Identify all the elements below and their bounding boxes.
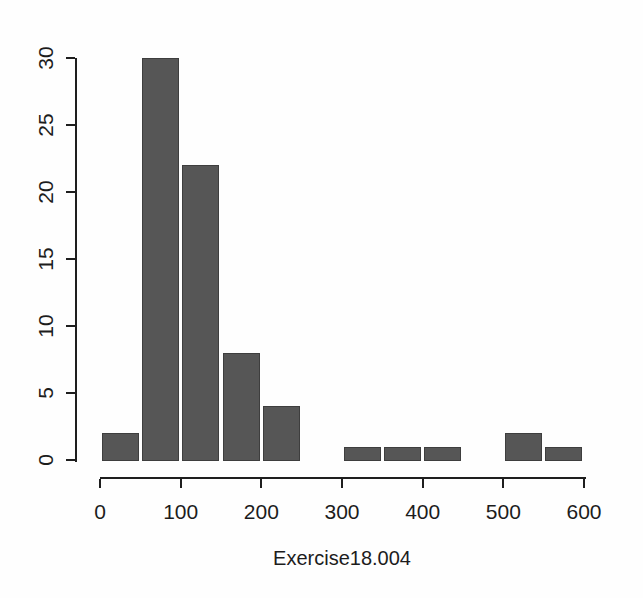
y-tick [66, 258, 75, 260]
y-tick-label: 30 [34, 46, 58, 69]
histogram-bar [182, 165, 219, 461]
x-tick [260, 479, 262, 488]
x-tick-label: 400 [405, 500, 440, 524]
histogram-bar [223, 353, 260, 461]
y-tick [66, 392, 75, 394]
y-tick [66, 124, 75, 126]
y-tick [66, 459, 75, 461]
x-tick-label: 600 [566, 500, 601, 524]
x-tick-label: 0 [94, 500, 106, 524]
y-tick-label: 5 [34, 387, 58, 399]
histogram-bar [545, 447, 582, 461]
y-tick [66, 57, 75, 59]
y-tick-label: 15 [34, 247, 58, 270]
x-tick [180, 479, 182, 488]
x-axis-title: Exercise18.004 [273, 547, 411, 570]
y-tick [66, 191, 75, 193]
histogram-bar [384, 447, 421, 461]
y-tick [66, 325, 75, 327]
y-tick-label: 20 [34, 180, 58, 203]
x-tick [341, 479, 343, 488]
x-axis-line [100, 477, 586, 479]
histogram-bar [424, 447, 461, 461]
x-tick [583, 479, 585, 488]
histogram-bar [142, 58, 179, 461]
x-tick [502, 479, 504, 488]
histogram-bar [505, 433, 542, 461]
y-tick-label: 0 [34, 454, 58, 466]
x-tick [422, 479, 424, 488]
x-tick [99, 479, 101, 488]
x-tick-label: 300 [324, 500, 359, 524]
y-tick-label: 25 [34, 113, 58, 136]
histogram-bar [102, 433, 139, 461]
y-tick-label: 10 [34, 314, 58, 337]
x-tick-label: 200 [244, 500, 279, 524]
histogram-bar [344, 447, 381, 461]
histogram-bar [263, 406, 300, 461]
x-tick-label: 500 [486, 500, 521, 524]
x-tick-label: 100 [163, 500, 198, 524]
histogram-figure: 051015202530 0100200300400500600 Exercis… [0, 0, 643, 598]
y-axis-line [75, 58, 77, 462]
